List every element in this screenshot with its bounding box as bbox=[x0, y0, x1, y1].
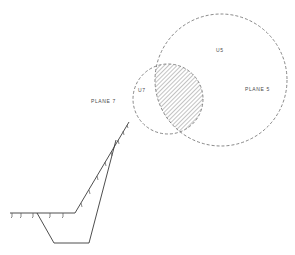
label-plane5: PLANE 5 bbox=[245, 87, 270, 92]
ground-ticks-slope bbox=[81, 125, 128, 207]
trench-outline bbox=[37, 140, 116, 243]
hatched-intersection-region bbox=[155, 14, 287, 146]
diagram-canvas bbox=[0, 0, 295, 255]
label-u7: U7 bbox=[138, 88, 146, 93]
ground-surface-line bbox=[10, 122, 129, 213]
label-plane7: PLANE 7 bbox=[91, 99, 116, 104]
label-u5: U5 bbox=[216, 48, 224, 53]
